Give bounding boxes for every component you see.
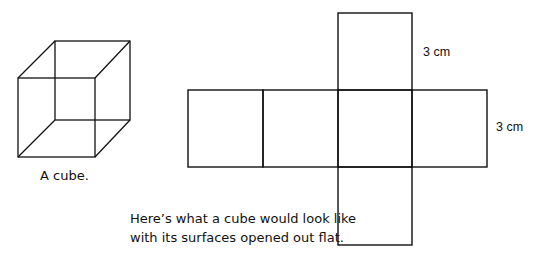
cube-edge: [18, 41, 55, 78]
net-face-left: [188, 90, 263, 167]
net-caption-line-1: Here’s what a cube would look like: [130, 209, 330, 228]
net-caption: Here’s what a cube would look like with …: [130, 209, 330, 247]
net-face-top: [338, 13, 412, 90]
cube-caption: A cube.: [40, 168, 89, 183]
net-face-right: [412, 90, 487, 167]
cube-edge: [95, 41, 130, 78]
cube-wireframe: [18, 41, 130, 157]
net-face-center: [338, 90, 412, 167]
dimension-label-right: 3 cm: [496, 120, 523, 134]
cube-edge: [95, 120, 130, 157]
net-face-bottom: [338, 167, 412, 245]
dimension-label-top: 3 cm: [423, 45, 450, 59]
cube-edge: [18, 120, 55, 157]
net-face-left-center: [263, 90, 338, 167]
net-caption-line-2: with its surfaces opened out flat.: [130, 228, 330, 247]
